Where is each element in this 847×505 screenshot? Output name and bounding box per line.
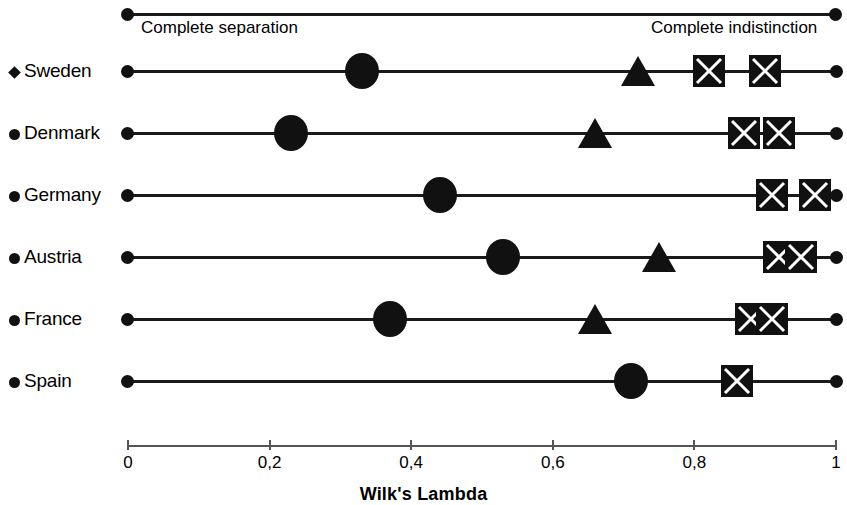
marker-square-spain-1: [721, 365, 753, 397]
row-scale-line: [128, 194, 836, 197]
marker-square-sweden-3: [749, 55, 781, 87]
country-name: Austria: [24, 246, 82, 268]
row-left-endpoint: [121, 127, 134, 140]
complete-indistinction-label: Complete indistinction: [651, 18, 817, 38]
dot-icon: [8, 251, 21, 264]
row-right-endpoint: [830, 127, 843, 140]
x-tick-3: [552, 440, 554, 450]
marker-square-sweden-2: [693, 55, 725, 87]
country-name: Spain: [24, 370, 72, 392]
row-left-endpoint: [121, 251, 134, 264]
marker-triangle-austria-1: [642, 242, 676, 272]
marker-circle-spain-0: [614, 363, 648, 399]
country-row-sweden: Sweden: [0, 48, 847, 94]
row-label-sweden: Sweden: [8, 60, 91, 82]
x-tick-label-3: 0,6: [541, 453, 565, 473]
country-row-denmark: Denmark: [0, 110, 847, 156]
row-right-endpoint: [830, 375, 843, 388]
marker-square-austria-3: [785, 241, 817, 273]
country-name: Sweden: [24, 60, 91, 82]
x-tick-label-1: 0,2: [258, 453, 282, 473]
row-right-endpoint: [830, 65, 843, 78]
marker-square-germany-1: [756, 179, 788, 211]
marker-square-denmark-3: [763, 117, 795, 149]
row-scale-line: [128, 318, 836, 321]
row-left-endpoint: [121, 189, 134, 202]
x-tick-label-0: 0: [123, 453, 132, 473]
dot-icon: [8, 127, 21, 140]
x-tick-5: [835, 440, 837, 450]
dot-icon: [8, 375, 21, 388]
country-name: Denmark: [24, 122, 100, 144]
marker-circle-sweden-0: [345, 53, 379, 89]
x-tick-0: [127, 440, 129, 450]
dot-icon: [8, 189, 21, 202]
x-tick-label-2: 0,4: [399, 453, 423, 473]
row-left-endpoint: [121, 313, 134, 326]
marker-circle-austria-0: [486, 239, 520, 275]
marker-triangle-denmark-1: [578, 118, 612, 148]
x-tick-label-5: 1: [831, 453, 840, 473]
dot-icon: [8, 313, 21, 326]
marker-circle-france-0: [373, 301, 407, 337]
diamond-icon: [8, 65, 21, 78]
x-axis: 00,20,40,60,81 Wilk's Lambda: [0, 440, 847, 505]
x-axis-title: Wilk's Lambda: [0, 484, 847, 505]
x-axis-line: [128, 445, 836, 447]
marker-square-denmark-2: [728, 117, 760, 149]
row-label-denmark: Denmark: [8, 122, 100, 144]
marker-triangle-france-1: [578, 304, 612, 334]
marker-square-germany-2: [799, 179, 831, 211]
marker-square-france-3: [756, 303, 788, 335]
complete-separation-label: Complete separation: [141, 18, 298, 38]
row-right-endpoint: [830, 251, 843, 264]
country-row-france: France: [0, 296, 847, 342]
country-row-austria: Austria: [0, 234, 847, 280]
country-row-germany: Germany: [0, 172, 847, 218]
row-right-endpoint: [830, 313, 843, 326]
x-tick-1: [269, 440, 271, 450]
row-scale-line: [128, 70, 836, 73]
row-right-endpoint: [830, 189, 843, 202]
reference-scale-row: Complete separation Complete indistincti…: [0, 0, 847, 44]
country-name: Germany: [24, 184, 101, 206]
row-left-endpoint: [121, 65, 134, 78]
row-label-france: France: [8, 308, 82, 330]
x-tick-2: [410, 440, 412, 450]
x-tick-label-4: 0,8: [683, 453, 707, 473]
row-label-spain: Spain: [8, 370, 72, 392]
wilks-lambda-chart: Complete separation Complete indistincti…: [0, 0, 847, 505]
row-label-austria: Austria: [8, 246, 82, 268]
country-name: France: [24, 308, 82, 330]
marker-triangle-sweden-1: [621, 56, 655, 86]
x-tick-4: [693, 440, 695, 450]
country-row-spain: Spain: [0, 358, 847, 404]
marker-circle-denmark-0: [274, 115, 308, 151]
row-label-germany: Germany: [8, 184, 101, 206]
row-left-endpoint: [121, 375, 134, 388]
reference-scale-line: [128, 13, 836, 16]
row-scale-line: [128, 256, 836, 259]
reference-left-endpoint: [121, 8, 134, 21]
marker-circle-germany-0: [423, 177, 457, 213]
reference-right-endpoint: [829, 8, 842, 21]
